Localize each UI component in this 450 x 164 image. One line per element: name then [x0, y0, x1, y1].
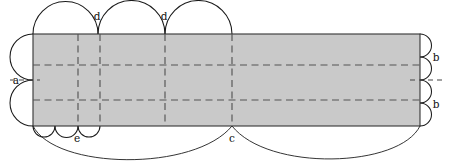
right-arc-4: [420, 103, 432, 126]
top-arc-1: [33, 2, 98, 35]
bottom-large-arc-group: [33, 126, 420, 160]
central-rectangle-panel: [33, 34, 420, 126]
label-d-2: d: [161, 10, 168, 22]
right-arc-2: [420, 57, 432, 80]
label-b-1: b: [433, 51, 440, 63]
label-b-2: b: [433, 98, 440, 110]
left-arc-bottom: [10, 80, 33, 126]
top-arc-2: [98, 0, 165, 34]
right-arc-3: [420, 80, 432, 103]
label-e: e: [74, 132, 80, 144]
label-d-1: d: [94, 10, 101, 22]
right-arc-1: [420, 34, 432, 57]
bottom-small-arc-3: [78, 126, 100, 137]
top-arc-3: [165, 0, 232, 34]
figure-canvas: a d d b b e c: [0, 0, 450, 164]
label-a: a: [13, 74, 19, 86]
top-semicircle-group: [33, 0, 232, 34]
label-c: c: [229, 132, 235, 144]
bottom-large-arc-left: [33, 126, 232, 160]
bottom-small-semicircle-group: [33, 126, 100, 138]
geometric-diagram: a d d b b e c: [0, 0, 450, 164]
bottom-large-arc-right: [232, 126, 420, 159]
